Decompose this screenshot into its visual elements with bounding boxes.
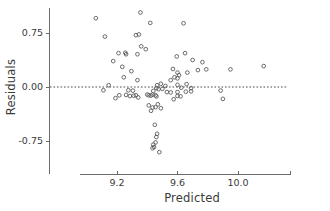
data-point	[148, 21, 152, 25]
data-point	[122, 75, 126, 79]
data-point	[185, 82, 189, 86]
data-point	[114, 96, 118, 100]
data-point	[169, 91, 173, 95]
data-point	[136, 78, 140, 82]
data-point	[176, 83, 180, 87]
data-point	[130, 69, 134, 73]
data-point	[139, 11, 143, 15]
data-point	[111, 59, 115, 63]
data-point	[131, 89, 135, 93]
data-point	[120, 65, 124, 69]
y-tick-label: -0.75	[18, 135, 43, 146]
x-axis-label: Predicted	[164, 191, 220, 205]
data-point	[183, 51, 187, 55]
data-point	[171, 67, 175, 71]
data-point	[179, 86, 183, 90]
data-point	[165, 90, 169, 94]
data-point	[176, 90, 180, 94]
data-point	[136, 52, 140, 56]
data-point	[175, 55, 179, 59]
y-axis-ticks-group: 0.750.00-0.75	[18, 27, 50, 146]
data-point	[154, 95, 158, 99]
y-tick-label: 0.00	[22, 81, 43, 92]
data-point	[172, 97, 176, 101]
data-point	[128, 94, 132, 98]
data-point	[201, 60, 205, 64]
data-point	[191, 58, 195, 62]
y-tick-label: 0.75	[22, 27, 43, 38]
x-tick-label: 9.2	[109, 177, 124, 188]
plot-canvas: 9.29.610.0 0.750.00-0.75 Predicted Resid…	[0, 0, 330, 211]
y-axis-label: Residuals	[4, 59, 18, 115]
data-point	[124, 93, 128, 97]
data-point	[204, 68, 208, 72]
data-point	[102, 88, 106, 92]
scatter-plot-figure: 9.29.610.0 0.750.00-0.75 Predicted Resid…	[0, 0, 330, 211]
data-point	[219, 89, 223, 93]
data-point	[158, 150, 162, 154]
data-point	[161, 87, 165, 91]
data-point	[154, 141, 158, 145]
data-point	[107, 83, 111, 87]
data-point	[196, 68, 200, 72]
data-point	[136, 96, 140, 100]
data-point	[164, 84, 168, 88]
data-point	[221, 97, 225, 101]
data-point	[151, 89, 155, 93]
data-point	[262, 64, 266, 68]
x-tick-label: 10.0	[227, 177, 248, 188]
data-point	[103, 35, 107, 39]
data-point	[144, 47, 148, 51]
data-point	[159, 82, 163, 86]
data-point	[184, 90, 188, 94]
data-point	[153, 123, 157, 127]
data-point	[94, 16, 98, 20]
data-point	[182, 21, 186, 25]
data-point	[117, 51, 121, 55]
data-points-group	[94, 11, 266, 154]
data-point	[147, 104, 151, 108]
data-point	[159, 106, 163, 110]
data-point	[117, 93, 121, 97]
data-point	[185, 71, 189, 75]
data-point	[149, 109, 153, 113]
data-point	[229, 68, 233, 72]
data-point	[139, 44, 143, 48]
data-point	[126, 88, 130, 92]
x-tick-label: 9.6	[170, 177, 185, 188]
data-point	[169, 78, 173, 82]
